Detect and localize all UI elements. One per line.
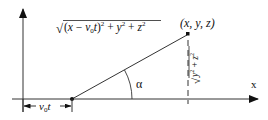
sup-2c: 2 xyxy=(142,20,146,28)
distance-formula: √ (x − v0t)2 + y2 + z2 xyxy=(56,20,161,36)
minus: − xyxy=(73,21,85,33)
distance-line xyxy=(72,35,187,99)
target-point xyxy=(186,32,190,36)
distance-expression: (x − v0t)2 + y2 + z2 xyxy=(64,20,146,35)
point-label: (x, y, z) xyxy=(180,16,215,30)
perp-radical-sign: √ xyxy=(190,77,202,84)
plus-a: + xyxy=(104,21,116,33)
angle-label: α xyxy=(136,77,143,91)
perp-sup-b: 2 xyxy=(189,53,195,56)
perp-plus: + xyxy=(190,60,200,70)
radical-sign: √ xyxy=(56,21,64,36)
offset-label: v0t xyxy=(39,100,51,114)
perp-expression: y2 + z2 xyxy=(189,53,200,78)
plus-b: + xyxy=(125,21,137,33)
perpendicular-formula: √ y2 + z2 xyxy=(189,46,202,84)
offset-t: t xyxy=(47,100,51,112)
angle-arc xyxy=(125,70,133,99)
x-axis-label: x xyxy=(251,78,257,90)
moving-source-diagram: v0t √ (x − v0t)2 + y2 + z2 (x, y, z) √ y… xyxy=(0,0,268,120)
